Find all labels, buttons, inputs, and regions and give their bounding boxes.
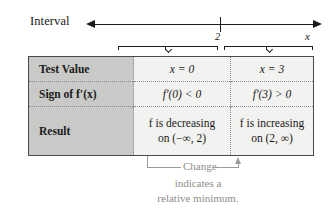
caption-line-2: indicates a — [0, 177, 334, 189]
right-arrowhead-icon — [313, 20, 322, 28]
cell-test-value-left: x = 0 — [134, 57, 231, 82]
row-header-result: Result — [29, 107, 134, 155]
interval-label: Interval — [30, 14, 70, 29]
cell-sign-right: f′(3) > 0 — [231, 82, 314, 107]
interval-analysis-table: Test Value x = 0 x = 3 Sign of f′(x) f′(… — [28, 56, 314, 156]
axis-variable-label: x — [305, 30, 310, 42]
cell-result-right: f is increasing on (2, ∞) — [231, 107, 314, 155]
brace-tip-right-icon — [312, 46, 313, 50]
cell-result-right-line1: f is increasing — [231, 116, 313, 131]
cell-result-left-line2: on (−∞, 2) — [134, 131, 230, 146]
cell-result-left: f is decreasing on (−∞, 2) — [134, 107, 231, 155]
cell-result-left-line1: f is decreasing — [134, 116, 230, 131]
caption-line-3: relative minimum. — [0, 192, 334, 204]
brace-tip-left-icon — [118, 46, 119, 50]
left-arrowhead-icon — [86, 20, 95, 28]
brace-interval-left — [118, 46, 218, 52]
brace-tip-left-icon — [224, 46, 225, 50]
caption-region: Change indicates a relative minimum. — [0, 156, 334, 216]
table-row: Result f is decreasing on (−∞, 2) f is i… — [29, 107, 313, 155]
brace-midpoint-icon — [165, 46, 172, 53]
cell-sign-left: f′(0) < 0 — [134, 82, 231, 107]
axis-tick-mark — [220, 17, 221, 32]
caption-leader-left — [147, 167, 181, 168]
row-header-sign-of-derivative: Sign of f′(x) — [29, 82, 134, 107]
number-line-region: Interval 2 x — [0, 0, 334, 56]
row-header-test-value: Test Value — [29, 57, 134, 82]
brace-midpoint-icon — [265, 46, 272, 53]
caption-line-1: Change — [183, 160, 217, 172]
cell-test-value-right: x = 3 — [231, 57, 314, 82]
brace-tip-right-icon — [217, 46, 218, 50]
cell-result-right-line2: on (2, ∞) — [231, 131, 313, 146]
brace-interval-right — [224, 46, 313, 52]
caption-leader-right — [213, 167, 239, 168]
up-arrow-icon — [235, 157, 241, 164]
axis-tick-label-2: 2 — [215, 31, 220, 42]
table-row: Sign of f′(x) f′(0) < 0 f′(3) > 0 — [29, 82, 313, 107]
table-row: Test Value x = 0 x = 3 — [29, 57, 313, 82]
number-line-axis — [94, 24, 315, 25]
